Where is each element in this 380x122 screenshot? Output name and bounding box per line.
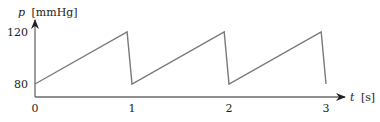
x-tick-label: 0 — [32, 102, 39, 115]
chart-canvas: 012380120 p [mmHg] t [s] — [0, 0, 380, 122]
pressure-line — [35, 32, 326, 84]
x-tick-label: 3 — [323, 102, 330, 115]
y-axis-label: p [mmHg] — [18, 6, 78, 19]
y-tick-label: 120 — [7, 26, 28, 39]
x-axis-label: t [s] — [350, 91, 375, 104]
pressure-chart: 012380120 p [mmHg] t [s] — [0, 0, 380, 122]
y-tick-label: 80 — [14, 78, 28, 91]
x-tick-label: 2 — [226, 102, 233, 115]
x-tick-label: 1 — [129, 102, 136, 115]
